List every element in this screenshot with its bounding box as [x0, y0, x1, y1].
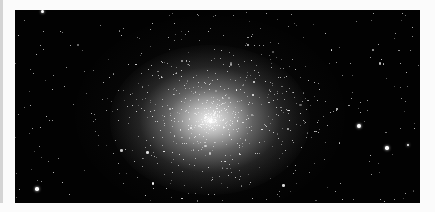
star-cluster-photo: Globular star cluster: [15, 10, 420, 203]
left-edge-bar: [0, 0, 3, 203]
